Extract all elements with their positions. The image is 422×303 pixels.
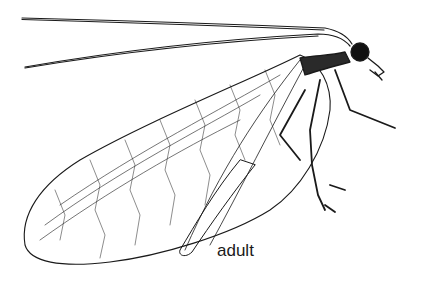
wing-veins	[55, 70, 280, 258]
wing	[24, 55, 330, 264]
body	[300, 43, 384, 80]
life-stage-label: adult	[217, 241, 254, 261]
illustration-canvas: adult	[0, 0, 422, 303]
lacewing-drawing	[0, 0, 422, 303]
legs	[280, 70, 395, 212]
